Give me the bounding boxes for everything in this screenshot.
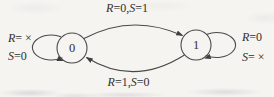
transition-arc-top xyxy=(84,25,183,39)
label-self-right-line1: R=0 xyxy=(241,30,262,44)
state-1-label: 1 xyxy=(193,38,199,52)
label-transition-top: R=0,S=1 xyxy=(105,1,148,15)
state-diagram: 0 1 R=0,S=1 R=1,S=0 R= × S=0 R=0 S= × xyxy=(0,0,274,97)
label-self-left-line1: R= × xyxy=(7,31,32,45)
label-self-left-line2: S=0 xyxy=(8,49,27,63)
label-self-right-line2: S= × xyxy=(242,50,265,64)
self-loop-left-arc xyxy=(32,35,62,60)
transition-arc-bottom xyxy=(87,55,185,72)
scanned-figure: 0 1 R=0,S=1 R=1,S=0 R= × S=0 R=0 S= × xyxy=(0,0,274,97)
label-transition-bottom: R=1,S=0 xyxy=(107,75,150,89)
self-loop-right-arc xyxy=(206,32,236,57)
state-0-label: 0 xyxy=(69,41,75,55)
